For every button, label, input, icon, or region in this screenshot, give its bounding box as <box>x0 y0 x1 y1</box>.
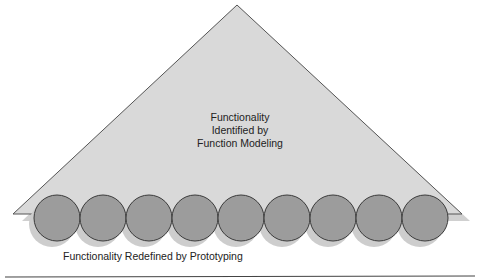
triangle-label: Functionality Identified by Function Mod… <box>160 111 320 150</box>
function-modeling-triangle <box>13 5 462 214</box>
prototype-circle <box>34 195 80 241</box>
bottom-rule <box>5 276 475 277</box>
prototype-circle <box>126 195 172 241</box>
triangle-label-line-1: Functionality <box>160 111 320 124</box>
prototype-circles <box>34 195 448 241</box>
prototype-circle <box>402 195 448 241</box>
triangle-label-line-2: Identified by <box>160 124 320 137</box>
prototyping-label: Functionality Redefined by Prototyping <box>63 250 243 262</box>
prototype-circle <box>264 195 310 241</box>
prototype-circle <box>218 195 264 241</box>
prototype-circle <box>172 195 218 241</box>
prototype-circle <box>310 195 356 241</box>
triangle-label-line-3: Function Modeling <box>160 137 320 150</box>
prototype-circle <box>80 195 126 241</box>
prototype-circle <box>356 195 402 241</box>
